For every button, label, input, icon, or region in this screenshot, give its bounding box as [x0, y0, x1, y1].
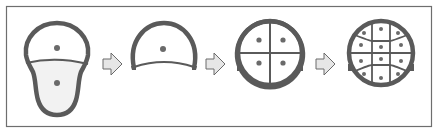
diagram-canvas [0, 0, 439, 132]
stage-4-dot [359, 59, 363, 63]
stage-4-dot [379, 57, 383, 61]
stage-4-dot [399, 43, 403, 47]
stage-3-dot [280, 60, 285, 65]
stage-4-dot [379, 76, 383, 80]
stage-3-dot [280, 37, 285, 42]
stage-3-left-foot [237, 64, 241, 71]
stage-2-dot [160, 46, 166, 52]
stage-1-dot-upper [54, 45, 60, 51]
stage-3-dot [256, 37, 261, 42]
stage-1-dot-lower [54, 80, 60, 86]
stage-4-dot [399, 59, 403, 63]
stage-4-dot [396, 31, 400, 35]
stage-4-dot [362, 72, 366, 76]
stage-3-right-foot [299, 64, 303, 71]
stage-3-dot [256, 60, 261, 65]
stage-4-dot [359, 43, 363, 47]
stage-4-left-foot [348, 64, 352, 71]
stage-4-right-foot [410, 64, 414, 71]
stage-4-dot [379, 27, 383, 31]
stage-4-dot [396, 72, 400, 76]
stage-4-dot [362, 31, 366, 35]
stage-4-dot [379, 45, 383, 49]
